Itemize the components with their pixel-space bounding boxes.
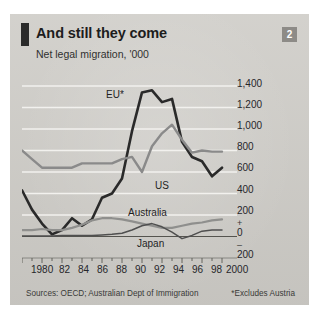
chart-subtitle: Net legal migration, '000 (36, 48, 149, 60)
series-line-eu (22, 90, 222, 234)
series-line-australia (22, 218, 222, 230)
x-axis-ticks (22, 258, 237, 263)
y-tick-1400: 1,400 (237, 78, 262, 89)
frame-top (0, 0, 317, 14)
y-tick-0: 0 (237, 227, 243, 238)
y-tick-400: 400 (237, 184, 254, 195)
y-tick-1000: 1,000 (237, 120, 262, 131)
series-label-eu: EU* (106, 89, 124, 100)
series-label-australia: Australia (128, 207, 167, 218)
x-tick-2000: 2000 (226, 264, 248, 275)
x-tick-90: 90 (135, 264, 146, 275)
y-tick-600: 600 (237, 162, 254, 173)
x-tick-88: 88 (116, 264, 127, 275)
y-tick-200: 200 (237, 205, 254, 216)
title-marker (21, 23, 29, 46)
x-tick-96: 96 (192, 264, 203, 275)
x-tick-92: 92 (154, 264, 165, 275)
series-label-japan: Japan (137, 238, 164, 249)
frame-bottom (0, 305, 317, 320)
footer-note: *Excludes Austria (231, 289, 295, 298)
x-tick-86: 86 (97, 264, 108, 275)
x-tick-82: 82 (59, 264, 70, 275)
x-tick-1980: 1980 (31, 264, 53, 275)
page-title: And still they come (36, 25, 167, 41)
chart-number-badge: 2 (282, 27, 297, 42)
y-tick-800: 800 (237, 141, 254, 152)
chart-page: And still they come Net legal migration,… (0, 0, 317, 320)
y-tick-minus-200: 200 (237, 249, 254, 260)
frame-left (0, 0, 10, 320)
frame-right (309, 0, 317, 320)
series-label-us: US (155, 180, 169, 191)
x-tick-84: 84 (78, 264, 89, 275)
series-line-us (22, 125, 222, 172)
series-paths (22, 90, 222, 238)
footer-sources: Sources: OECD; Australian Dept of Immigr… (26, 289, 198, 298)
x-tick-94: 94 (173, 264, 184, 275)
x-tick-98: 98 (211, 264, 222, 275)
y-tick-1200: 1,200 (237, 99, 262, 110)
